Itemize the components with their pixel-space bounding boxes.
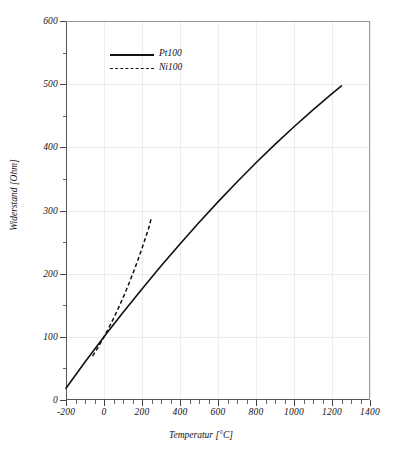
page-caption-fragment: [4, 450, 264, 460]
legend-item-pt100: Pt100: [110, 48, 220, 62]
series-line-ni100: [93, 217, 152, 356]
x-axis-title: Temperatur [°C]: [0, 430, 402, 440]
series-line-pt100: [66, 86, 342, 388]
legend-label-pt100: Pt100: [159, 48, 182, 58]
legend-label-ni100: Ni100: [159, 62, 182, 72]
legend-swatch-dashed: [110, 68, 154, 69]
y-axis-title: Widerstand [Ohm]: [9, 135, 19, 255]
legend-swatch-solid: [110, 54, 154, 56]
chart-legend: Pt100 Ni100: [110, 48, 220, 76]
legend-item-ni100: Ni100: [110, 62, 220, 76]
resistance-temperature-chart: -2000200400600800100012001400 0100200300…: [0, 0, 402, 463]
